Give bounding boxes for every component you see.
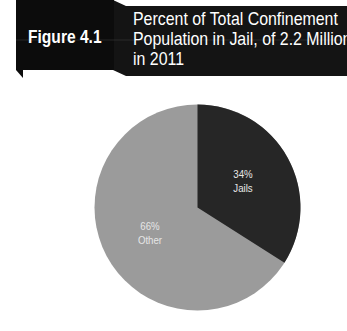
jails-name: Jails <box>230 181 256 195</box>
slice-label-jails: 34% Jails <box>230 167 256 195</box>
pie-chart <box>0 0 347 331</box>
other-name: Other <box>135 233 165 247</box>
jails-percent: 34% <box>230 167 256 181</box>
slice-label-other: 66% Other <box>135 219 165 247</box>
other-percent: 66% <box>135 219 165 233</box>
